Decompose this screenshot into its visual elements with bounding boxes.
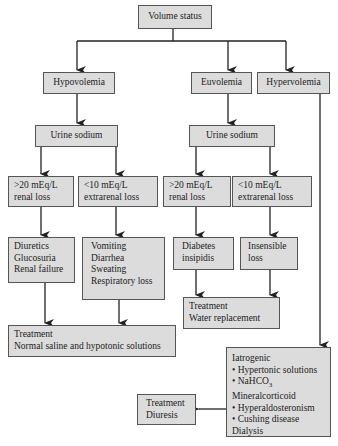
cause-nahco3-subscript: 3 [269, 381, 273, 389]
hypo-extrarenal-threshold: <10 mEq/L [84, 180, 152, 192]
cause-nahco3: NaHCO3 [232, 376, 325, 391]
cause-cushing-disease: Cushing disease [232, 414, 325, 426]
cause-renal-failure: Renal failure [14, 264, 69, 276]
cause-dialysis: Dialysis [232, 426, 325, 438]
hyper-treatment-title: Treatment [146, 398, 190, 410]
hypo-treatment-detail: Normal saline and hypotonic solutions [14, 341, 170, 353]
euvo-renal-threshold: >20 mEq/L [169, 180, 225, 192]
cause-sweating: Sweating [91, 264, 159, 276]
cause-diarrhea: Diarrhea [91, 253, 159, 265]
volume-status-label: Volume status [148, 11, 201, 23]
euvo-urine-sodium-box: Urine sodium [189, 125, 275, 147]
hypo-renal-causes-box: Diuretics Glucosuria Renal failure [8, 237, 75, 283]
hypo-renal-loss-box: >20 mEq/L renal loss [8, 176, 74, 207]
cause-diuretics: Diuretics [14, 241, 69, 253]
cause-insipidis: insipidis [182, 253, 228, 265]
volume-status-box: Volume status [138, 5, 212, 29]
euvo-renal-type: renal loss [169, 192, 225, 204]
hypo-urine-sodium-box: Urine sodium [35, 125, 118, 147]
cause-insensible: Insensible [248, 241, 292, 253]
hypervolemia-label: Hypervolemia [266, 77, 320, 89]
euvo-extrarenal-causes-box: Insensible loss [240, 237, 298, 270]
cause-vomiting: Vomiting [91, 241, 159, 253]
cause-respiratory-loss: Respiratory loss [91, 276, 159, 288]
hypo-renal-type: renal loss [14, 192, 68, 204]
hypo-renal-threshold: >20 mEq/L [14, 180, 68, 192]
hyper-causes-box: Iatrogenic Hypertonic solutions NaHCO3 M… [226, 347, 331, 437]
hypo-extrarenal-causes-box: Vomiting Diarrhea Sweating Respiratory l… [82, 237, 165, 300]
hypo-extrarenal-type: extrarenal loss [84, 192, 152, 204]
euvo-renal-causes-box: Diabetes insipidis [173, 237, 234, 270]
cause-nahco3-text: NaHCO [238, 376, 269, 386]
euvo-extrarenal-loss-box: <10 mEq/L extrarenal loss [232, 176, 312, 207]
cause-mineralocorticoid: Mineralcorticoid [232, 391, 325, 403]
cause-loss: loss [248, 253, 292, 265]
euvo-treatment-title: Treatment [189, 301, 274, 313]
euvo-extrarenal-threshold: <10 mEq/L [238, 180, 306, 192]
hypo-urine-sodium-label: Urine sodium [51, 130, 103, 142]
euvo-urine-sodium-label: Urine sodium [206, 130, 258, 142]
cause-diabetes: Diabetes [182, 241, 228, 253]
euvo-treatment-detail: Water replacement [189, 313, 274, 325]
hyper-treatment-box: Treatment Diuresis [137, 394, 196, 425]
cause-glucosuria: Glucosuria [14, 253, 69, 265]
hypo-treatment-title: Treatment [14, 329, 170, 341]
hypo-extrarenal-loss-box: <10 mEq/L extrarenal loss [78, 176, 158, 207]
hypovolemia-label: Hypovolemia [53, 77, 105, 89]
cause-hypertonic-solutions: Hypertonic solutions [232, 365, 325, 377]
cause-iatrogenic: Iatrogenic [232, 353, 325, 365]
hypovolemia-box: Hypovolemia [43, 72, 115, 94]
hypervolemia-box: Hypervolemia [257, 72, 330, 94]
euvolemia-box: Euvolemia [191, 72, 252, 94]
euvo-extrarenal-type: extrarenal loss [238, 192, 306, 204]
cause-hyperaldosteronism: Hyperaldosteronism [232, 403, 325, 415]
euvolemia-label: Euvolemia [201, 77, 242, 89]
hypo-treatment-box: Treatment Normal saline and hypotonic so… [8, 325, 176, 357]
hyper-treatment-detail: Diuresis [146, 410, 190, 422]
euvo-renal-loss-box: >20 mEq/L renal loss [163, 176, 231, 207]
euvo-treatment-box: Treatment Water replacement [183, 297, 280, 329]
